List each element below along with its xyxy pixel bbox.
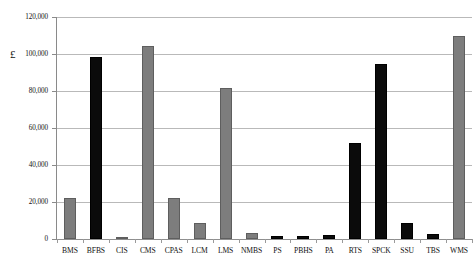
x-axis-tick-label: CMS <box>140 246 156 255</box>
x-axis-tick <box>394 239 395 243</box>
x-axis-tick <box>420 239 421 243</box>
x-axis-tick-labels: BMSBFBSCISCMSCPASLCMLMSNMBSPSPBHSPARTSSP… <box>57 246 472 264</box>
x-axis-tick-label: PA <box>325 246 334 255</box>
y-axis-tick-label: 0 <box>0 235 48 243</box>
y-axis-tick <box>52 165 56 166</box>
x-axis-tick-label: LMS <box>218 246 233 255</box>
x-axis-tick <box>109 239 110 243</box>
x-axis-tick <box>368 239 369 243</box>
y-axis-tick <box>52 128 56 129</box>
bar-tbs <box>427 234 439 239</box>
x-axis-tick <box>57 239 58 243</box>
x-axis-tick <box>161 239 162 243</box>
bar-rts <box>349 143 361 239</box>
x-axis-tick <box>135 239 136 243</box>
bar-cpas <box>168 198 180 239</box>
y-axis-tick <box>52 91 56 92</box>
y-axis-tick <box>52 202 56 203</box>
x-axis-tick-label: NMBS <box>241 246 262 255</box>
x-axis-tick-label: PS <box>273 246 281 255</box>
x-axis-tick <box>213 239 214 243</box>
bar-spck <box>375 64 387 239</box>
bar-nmbs <box>246 233 258 239</box>
x-axis-tick-label: SSU <box>400 246 414 255</box>
x-axis-tick-label: CIS <box>116 246 128 255</box>
bar-cis <box>116 237 128 239</box>
x-axis-tick-label: BFBS <box>87 246 105 255</box>
bar-pa <box>323 235 335 239</box>
x-axis-tick-label: LCM <box>192 246 208 255</box>
y-axis-tick-label: 20,000 <box>0 198 48 206</box>
y-axis-tick-label: 60,000 <box>0 124 48 132</box>
bar-bfbs <box>90 57 102 239</box>
bar-chart: £ 020,00040,00060,00080,000100,000120,00… <box>0 0 475 271</box>
x-axis-tick <box>316 239 317 243</box>
y-axis-tick-label: 120,000 <box>0 13 48 21</box>
x-axis-tick-label: SPCK <box>372 246 391 255</box>
plot-area <box>57 17 472 239</box>
y-axis-tick-label: 40,000 <box>0 161 48 169</box>
bar-ps <box>271 236 283 239</box>
x-axis-tick <box>472 239 473 243</box>
x-axis-tick <box>83 239 84 243</box>
bar-cms <box>142 46 154 239</box>
x-axis-tick <box>239 239 240 243</box>
bar-lcm <box>194 223 206 239</box>
x-axis-tick-label: WMS <box>450 246 468 255</box>
bar-series <box>57 17 472 239</box>
x-axis-tick <box>290 239 291 243</box>
y-axis-tick <box>52 239 56 240</box>
x-axis-tick <box>265 239 266 243</box>
y-axis-tick <box>52 54 56 55</box>
x-axis-tick-label: CPAS <box>165 246 183 255</box>
x-axis-tick-label: BMS <box>62 246 78 255</box>
y-axis-tick <box>52 17 56 18</box>
x-axis-tick <box>342 239 343 243</box>
x-axis-tick-label: PBHS <box>294 246 313 255</box>
y-axis-tick-label: 100,000 <box>0 50 48 58</box>
x-axis-tick <box>446 239 447 243</box>
bar-lms <box>220 88 232 239</box>
x-axis-tick-label: RTS <box>349 246 362 255</box>
x-axis-tick-label: TBS <box>426 246 440 255</box>
bar-wms <box>453 36 465 240</box>
bar-ssu <box>401 223 413 239</box>
y-axis-tick-label: 80,000 <box>0 87 48 95</box>
bar-pbhs <box>297 236 309 239</box>
bar-bms <box>64 198 76 239</box>
x-axis-tick <box>187 239 188 243</box>
